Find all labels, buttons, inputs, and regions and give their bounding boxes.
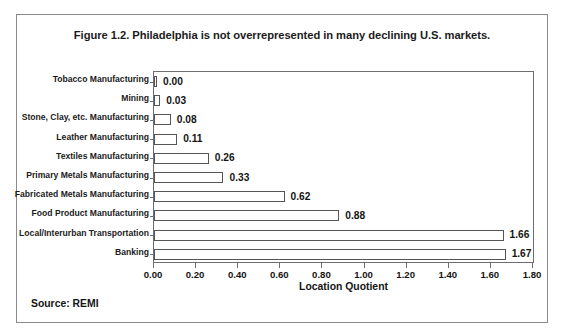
bar — [154, 114, 171, 125]
category-label: Fabricated Metals Manufacturing — [15, 189, 149, 199]
bar-row: Fabricated Metals Manufacturing0.62 — [154, 187, 533, 206]
bar — [154, 191, 285, 202]
x-axis-tick — [237, 263, 238, 268]
bar-value-label: 0.00 — [163, 76, 183, 87]
category-label: Primary Metals Manufacturing — [26, 170, 149, 180]
category-label: Leather Manufacturing — [56, 132, 149, 142]
category-label: Stone, Clay, etc. Manufacturing — [22, 112, 149, 122]
bar-value-label: 1.66 — [510, 229, 530, 240]
x-axis-tick-label: 1.20 — [396, 269, 415, 280]
category-label: Mining — [121, 93, 149, 103]
x-axis-tick-label: 0.40 — [228, 269, 247, 280]
bar-value-label: 0.03 — [166, 95, 186, 106]
bar-series: Tobacco Manufacturing0.00Mining0.03Stone… — [154, 72, 533, 262]
x-axis-tick — [448, 263, 449, 268]
bar-value-label: 0.88 — [345, 210, 365, 221]
x-axis-tick — [153, 263, 154, 268]
bar-row: Stone, Clay, etc. Manufacturing0.08 — [154, 110, 533, 129]
x-axis-tick-label: 0.00 — [144, 269, 163, 280]
bar-row: Textiles Manufacturing0.26 — [154, 149, 533, 168]
source-note: Source: REMI — [31, 298, 99, 309]
category-label: Local/Interurban Transportation — [19, 228, 149, 238]
x-axis-tick — [364, 263, 365, 268]
bar-value-label: 0.11 — [183, 133, 202, 144]
bar-row: Banking1.67 — [154, 245, 533, 264]
bar-value-label: 0.33 — [229, 172, 249, 183]
bar-row: Tobacco Manufacturing0.00 — [154, 72, 533, 91]
category-label: Tobacco Manufacturing — [53, 74, 149, 84]
x-axis-tick-label: 1.40 — [438, 269, 457, 280]
chart-plot-area: Tobacco Manufacturing0.00Mining0.03Stone… — [153, 71, 534, 263]
x-axis-tick-label: 1.60 — [481, 269, 500, 280]
bar-value-label: 1.67 — [512, 248, 532, 259]
bar — [154, 134, 177, 145]
category-label: Food Product Manufacturing — [32, 208, 149, 218]
bar — [154, 76, 157, 87]
figure-container: Figure 1.2. Philadelphia is not overrepr… — [16, 14, 548, 323]
x-axis: 0.000.200.400.600.801.001.201.401.601.80 — [153, 263, 534, 269]
x-axis-tick — [406, 263, 407, 268]
x-axis-tick — [532, 263, 533, 268]
figure-title: Figure 1.2. Philadelphia is not overrepr… — [17, 29, 547, 41]
x-axis-tick — [279, 263, 280, 268]
bar-row: Local/Interurban Transportation1.66 — [154, 226, 533, 245]
bar — [154, 172, 223, 183]
x-axis-tick-label: 0.80 — [312, 269, 331, 280]
x-axis-label: Location Quotient — [153, 281, 534, 292]
bar-value-label: 0.26 — [215, 152, 235, 163]
x-axis-tick-label: 1.80 — [523, 269, 542, 280]
bar-row: Food Product Manufacturing0.88 — [154, 206, 533, 225]
x-axis-tick-label: 0.20 — [186, 269, 205, 280]
bar-value-label: 0.62 — [291, 191, 311, 202]
bar — [154, 249, 506, 260]
category-label: Textiles Manufacturing — [56, 151, 149, 161]
x-axis-tick — [195, 263, 196, 268]
bar-row: Leather Manufacturing0.11 — [154, 130, 533, 149]
bar — [154, 210, 339, 221]
bar-row: Primary Metals Manufacturing0.33 — [154, 168, 533, 187]
bar — [154, 153, 209, 164]
category-label: Banking — [115, 247, 149, 257]
x-axis-tick-label: 1.00 — [354, 269, 373, 280]
bar-row: Mining0.03 — [154, 91, 533, 110]
x-axis-tick — [321, 263, 322, 268]
bar — [154, 230, 504, 241]
x-axis-tick-label: 0.60 — [270, 269, 289, 280]
bar-value-label: 0.08 — [177, 114, 197, 125]
x-axis-tick — [490, 263, 491, 268]
bar — [154, 95, 160, 106]
